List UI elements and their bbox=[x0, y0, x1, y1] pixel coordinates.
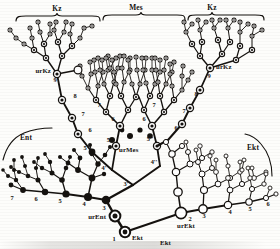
label-urkz-right: urKz bbox=[216, 63, 232, 70]
label-kz-right: Kz bbox=[207, 3, 217, 12]
label-urkz-left: urKz bbox=[35, 67, 51, 74]
node-number: 3 bbox=[202, 212, 205, 219]
node-number: 3' bbox=[124, 180, 129, 187]
node-number: 5 bbox=[248, 205, 251, 212]
node-number: 3 bbox=[102, 204, 105, 211]
label-urent: urEnt bbox=[88, 213, 107, 220]
node-number: 5 bbox=[58, 197, 61, 204]
ekt-origin-node bbox=[119, 226, 131, 238]
label-urekt: urEkt bbox=[177, 222, 196, 229]
node-number: 8 bbox=[194, 90, 197, 97]
node-number: 9 bbox=[53, 76, 56, 83]
node-number: 4'' bbox=[151, 158, 158, 165]
node-number: 9 bbox=[207, 72, 210, 79]
label-urmes: urMes bbox=[119, 146, 139, 153]
node-number: 8 bbox=[73, 92, 76, 99]
node-number: 2 bbox=[188, 215, 191, 222]
tree-canvas: Kz Mes Kz Ent Ekt urKz urKz urMes urEnt … bbox=[0, 0, 280, 249]
node-number: 5'' bbox=[147, 135, 154, 142]
caption-smudge bbox=[0, 241, 280, 249]
phylogenetic-tree-figure: Kz Mes Kz Ent Ekt urKz urKz urMes urEnt … bbox=[0, 0, 280, 249]
node-number: 5'' bbox=[107, 136, 114, 143]
node-number: 4' bbox=[102, 164, 107, 171]
node-number: 5' bbox=[84, 144, 89, 151]
urent-node bbox=[109, 210, 122, 223]
label-kz-left: Kz bbox=[52, 4, 62, 13]
label-ekt-bottom: Ekt bbox=[132, 234, 144, 241]
label-mes-top: Mes bbox=[129, 3, 143, 12]
label-ent-left: Ent bbox=[20, 133, 32, 142]
label-ekt-right: Ekt bbox=[247, 143, 259, 152]
